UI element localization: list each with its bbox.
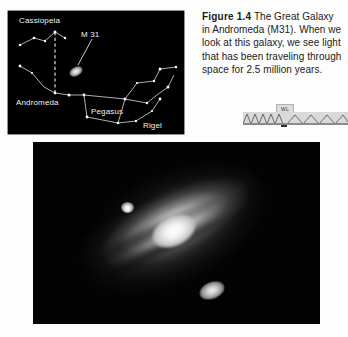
chart-label-cassiopeia: Cassiopeia	[19, 16, 60, 25]
figure-caption: Figure 1.4 The Great Galaxy in Andromeda…	[202, 10, 343, 76]
chart-label-rigel: Rigel	[143, 121, 162, 130]
figure-page: Cassiopeia M 31 Andromeda Pegasus Rigel …	[0, 0, 348, 337]
scan-artifact-strip	[243, 112, 348, 125]
chart-label-andromeda: Andromeda	[16, 98, 59, 107]
chart-label-pegasus: Pegasus	[91, 107, 123, 116]
bright-foreground-star	[123, 204, 132, 213]
star-chart-inset: Cassiopeia M 31 Andromeda Pegasus Rigel	[8, 11, 184, 134]
chart-label-m31: M 31	[81, 30, 99, 39]
galaxy-photograph	[33, 142, 320, 324]
figure-number: Figure 1.4	[202, 11, 251, 22]
